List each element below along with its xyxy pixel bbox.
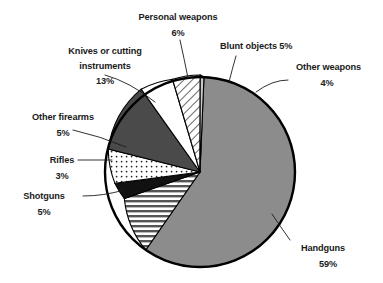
label-knives-value: 13% [96,76,114,86]
label-personal-weapons-name: Personal weapons [138,12,217,22]
pie-chart-figure: Personal weapons 6% Blunt objects 5% Oth… [0,0,383,283]
label-personal-weapons-value: 6% [171,28,184,38]
label-other-weapons-name: Other weapons [296,62,361,72]
pie-chart-svg: Personal weapons 6% Blunt objects 5% Oth… [0,0,383,283]
label-shotguns-name: Shotguns [23,191,65,201]
label-blunt-objects: Blunt objects 5% [220,41,292,51]
label-other-firearms-name: Other firearms [32,112,94,122]
label-rifles-value: 3% [55,171,68,181]
label-handguns-value: 59% [319,259,337,269]
label-handguns-name: Handguns [301,243,345,253]
label-shotguns-value: 5% [37,207,50,217]
pie-slices [105,75,295,267]
label-other-weapons-value: 4% [320,78,333,88]
label-knives-line2: instruments [79,61,130,71]
label-knives-line1: Knives or cutting [68,46,141,56]
label-other-firearms-value: 5% [56,128,69,138]
label-rifles-name: Rifles [50,155,74,165]
